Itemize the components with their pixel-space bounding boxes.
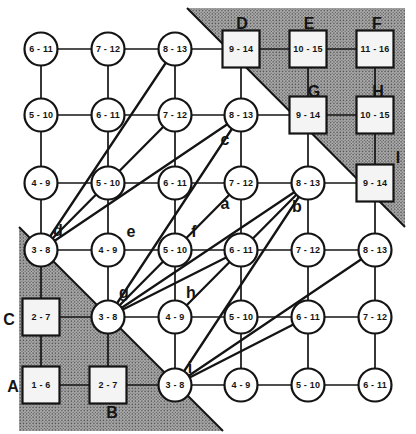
letter-f: f bbox=[191, 223, 197, 240]
node-r3c3: 6 - 11 bbox=[159, 167, 192, 200]
letter-H: H bbox=[372, 83, 384, 100]
node-label-r2c4: 8 - 13 bbox=[229, 110, 253, 120]
node-label-r4c4: 6 - 11 bbox=[229, 245, 253, 255]
letter-a: a bbox=[221, 195, 230, 212]
node-label-r3c3: 6 - 11 bbox=[163, 178, 187, 188]
node-label-r5c5: 6 - 11 bbox=[296, 312, 320, 322]
grid-graph-figure: 6 - 117 - 128 - 139 - 1410 - 1511 - 165 … bbox=[0, 0, 416, 434]
node-r6c1: 1 - 6 bbox=[23, 367, 60, 404]
node-label-r5c3: 4 - 9 bbox=[165, 312, 184, 322]
node-r1c1: 6 - 11 bbox=[25, 33, 58, 66]
node-r2c1: 5 - 10 bbox=[25, 99, 58, 132]
node-label-r6c5: 5 - 10 bbox=[296, 380, 320, 390]
node-label-r1c3: 8 - 13 bbox=[163, 44, 187, 54]
node-r4c2: 4 - 9 bbox=[92, 234, 125, 267]
node-r2c5: 9 - 14 bbox=[290, 97, 327, 134]
node-label-r4c3: 5 - 10 bbox=[163, 245, 187, 255]
node-label-r1c5: 10 - 15 bbox=[293, 44, 322, 54]
node-r6c4: 4 - 9 bbox=[225, 369, 258, 402]
node-r6c3: 3 - 8 bbox=[159, 369, 192, 402]
node-r5c5: 6 - 11 bbox=[292, 301, 325, 334]
node-r4c4: 6 - 11 bbox=[225, 234, 258, 267]
figure-canvas: 6 - 117 - 128 - 139 - 1410 - 1511 - 165 … bbox=[0, 0, 416, 434]
node-label-r3c2: 5 - 10 bbox=[96, 178, 120, 188]
letter-F: F bbox=[372, 15, 382, 32]
node-label-r6c6: 6 - 11 bbox=[363, 380, 387, 390]
node-label-r6c4: 4 - 9 bbox=[231, 380, 250, 390]
node-r5c4: 5 - 10 bbox=[225, 301, 258, 334]
node-r1c3: 8 - 13 bbox=[159, 33, 192, 66]
node-r5c3: 4 - 9 bbox=[159, 301, 192, 334]
node-r4c6: 8 - 13 bbox=[359, 234, 392, 267]
node-r3c5: 8 - 13 bbox=[292, 167, 325, 200]
node-r2c3: 7 - 12 bbox=[159, 99, 192, 132]
node-label-r3c6: 9 - 14 bbox=[363, 178, 387, 188]
node-r1c4: 9 - 14 bbox=[223, 31, 260, 68]
node-label-r5c2: 3 - 8 bbox=[98, 312, 117, 322]
letter-B: B bbox=[106, 404, 118, 421]
node-label-r5c4: 5 - 10 bbox=[229, 312, 253, 322]
node-r5c6: 7 - 12 bbox=[359, 301, 392, 334]
node-label-r2c1: 5 - 10 bbox=[29, 110, 53, 120]
letter-g: g bbox=[119, 284, 129, 301]
node-r2c2: 6 - 11 bbox=[92, 99, 125, 132]
node-label-r2c6: 10 - 15 bbox=[360, 110, 389, 120]
node-label-r5c6: 7 - 12 bbox=[363, 312, 387, 322]
node-r1c6: 11 - 16 bbox=[357, 31, 394, 68]
node-r6c2: 2 - 7 bbox=[90, 367, 127, 404]
node-label-r4c1: 3 - 8 bbox=[31, 245, 50, 255]
node-label-r3c1: 4 - 9 bbox=[31, 178, 50, 188]
node-r2c4: 8 - 13 bbox=[225, 99, 258, 132]
node-label-r2c5: 9 - 14 bbox=[296, 110, 320, 120]
node-r6c6: 6 - 11 bbox=[359, 369, 392, 402]
node-r5c1: 2 - 7 bbox=[23, 299, 60, 336]
node-r4c3: 5 - 10 bbox=[159, 234, 192, 267]
node-r3c6: 9 - 14 bbox=[357, 165, 394, 202]
node-label-r2c2: 6 - 11 bbox=[96, 110, 120, 120]
node-label-r4c6: 8 - 13 bbox=[363, 245, 387, 255]
shaded-regions bbox=[19, 8, 405, 431]
letter-i: i bbox=[188, 359, 192, 376]
letter-h: h bbox=[186, 284, 196, 301]
letter-e: e bbox=[127, 223, 136, 240]
letter-c: c bbox=[221, 131, 230, 148]
node-r1c2: 7 - 12 bbox=[92, 33, 125, 66]
letter-C: C bbox=[3, 311, 15, 328]
node-label-r2c3: 7 - 12 bbox=[163, 110, 187, 120]
node-label-r1c6: 11 - 16 bbox=[361, 44, 390, 54]
letter-E: E bbox=[304, 15, 315, 32]
node-label-r4c5: 7 - 12 bbox=[296, 245, 320, 255]
node-r5c2: 3 - 8 bbox=[92, 301, 125, 334]
node-label-r3c4: 7 - 12 bbox=[229, 178, 253, 188]
node-label-r6c1: 1 - 6 bbox=[31, 380, 50, 390]
node-r3c1: 4 - 9 bbox=[25, 167, 58, 200]
node-label-r6c2: 2 - 7 bbox=[98, 380, 117, 390]
node-label-r6c3: 3 - 8 bbox=[165, 380, 184, 390]
node-r2c6: 10 - 15 bbox=[357, 97, 394, 134]
node-label-r1c2: 7 - 12 bbox=[96, 44, 120, 54]
node-label-r1c1: 6 - 11 bbox=[29, 44, 53, 54]
node-r3c2: 5 - 10 bbox=[92, 167, 125, 200]
node-r6c5: 5 - 10 bbox=[292, 369, 325, 402]
letter-A: A bbox=[7, 378, 19, 395]
letter-D: D bbox=[236, 15, 248, 32]
node-r1c5: 10 - 15 bbox=[290, 31, 327, 68]
node-label-r5c1: 2 - 7 bbox=[31, 312, 50, 322]
letter-I: I bbox=[396, 149, 400, 166]
node-label-r1c4: 9 - 14 bbox=[229, 44, 253, 54]
letter-d: d bbox=[53, 222, 63, 239]
letter-G: G bbox=[308, 83, 320, 100]
node-r4c5: 7 - 12 bbox=[292, 234, 325, 267]
letter-b: b bbox=[292, 198, 302, 215]
node-label-r4c2: 4 - 9 bbox=[98, 245, 117, 255]
node-label-r3c5: 8 - 13 bbox=[296, 178, 320, 188]
